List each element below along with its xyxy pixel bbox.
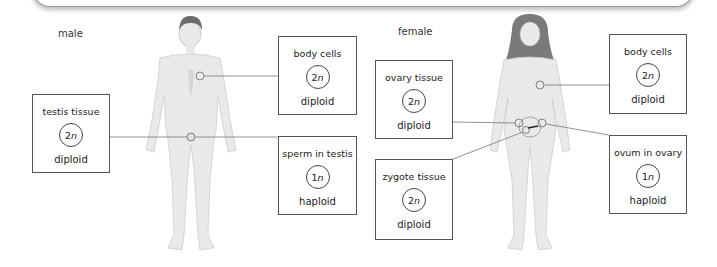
male-body-cells-box: body cells 2n diploid bbox=[278, 36, 357, 115]
sperm-in-testis-box: sperm in testis 1n haploid bbox=[278, 136, 357, 215]
ploidy-label: diploid bbox=[397, 219, 431, 230]
box-title: testis tissue bbox=[43, 106, 100, 117]
box-title: zygote tissue bbox=[382, 171, 445, 182]
chromosome-number-circle: 2n bbox=[59, 123, 83, 147]
chromosome-number-circle: 1n bbox=[636, 164, 660, 188]
ovum-in-ovary-box: ovum in ovary 1n haploid bbox=[609, 135, 687, 214]
female-figure bbox=[490, 14, 570, 250]
female-body-cells-box: body cells 2n diploid bbox=[609, 34, 687, 114]
ovary-tissue-box: ovary tissue 2n diploid bbox=[375, 60, 453, 139]
male-testis-marker bbox=[187, 133, 195, 141]
ploidy-label: haploid bbox=[630, 195, 667, 206]
ploidy-label: diploid bbox=[397, 120, 431, 131]
ploidy-label: diploid bbox=[301, 96, 335, 107]
chromosome-number-circle: 1n bbox=[306, 165, 330, 189]
chromosome-number-circle: 2n bbox=[402, 89, 426, 113]
box-title: ovary tissue bbox=[385, 72, 443, 83]
box-title: body cells bbox=[294, 48, 342, 59]
chromosome-number-circle: 2n bbox=[402, 188, 426, 212]
box-title: ovum in ovary bbox=[614, 147, 682, 158]
ploidy-label: diploid bbox=[631, 94, 665, 105]
box-title: body cells bbox=[624, 46, 672, 57]
testis-tissue-box: testis tissue 2n diploid bbox=[32, 94, 110, 173]
zygote-tissue-box: zygote tissue 2n diploid bbox=[375, 159, 453, 240]
box-title: sperm in testis bbox=[282, 148, 352, 159]
chromosome-number-circle: 2n bbox=[306, 65, 330, 89]
chromosome-number-circle: 2n bbox=[636, 63, 660, 87]
ploidy-label: haploid bbox=[299, 196, 336, 207]
ploidy-label: diploid bbox=[54, 154, 88, 165]
